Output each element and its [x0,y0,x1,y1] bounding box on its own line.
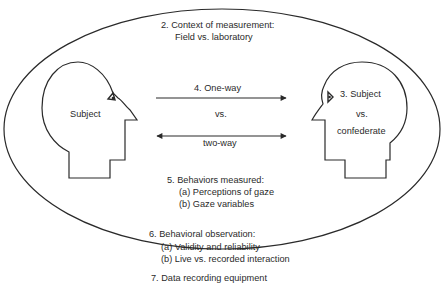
context-label: 2. Context of measurement: [161,20,274,31]
right-head-vs: vs. [356,109,368,120]
behaviors-measured-item-b: (b) Gaze variables [179,199,254,210]
context-sublabel: Field vs. laboratory [175,32,253,43]
behavioral-observation-title: 6. Behavioral observation: [149,229,255,240]
right-head-confederate: confederate [337,126,386,137]
equipment-label: 7. Data recording equipment [151,273,267,284]
behaviors-measured-title: 5. Behaviors measured: [167,175,264,186]
two-way-label: two-way [203,138,237,149]
direction-vs-label: vs. [215,109,227,120]
left-head-label: Subject [70,109,101,120]
behaviors-measured-item-a: (a) Perceptions of gaze [179,187,274,198]
right-head-label: 3. Subject [340,89,381,100]
left-head-outline [42,62,137,178]
behavioral-observation-item-a: (a) Validity and reliability [161,242,260,253]
one-way-label: 4. One-way [194,83,241,94]
right-head-outline [312,62,407,178]
behavioral-observation-item-b: (b) Live vs. recorded interaction [161,254,290,265]
left-eye-icon [108,93,115,100]
